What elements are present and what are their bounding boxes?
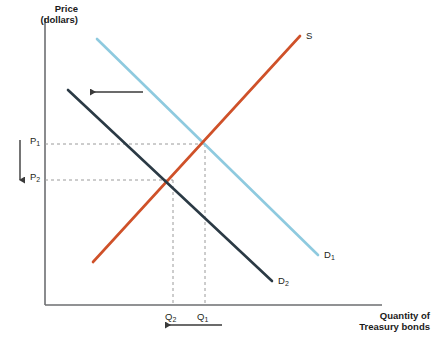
price-p1-label-sub: 1 [36,140,40,147]
quantity-q1-label: Q1 [197,312,208,323]
quantity-q2-label: Q2 [165,312,176,323]
axis-lines [45,18,382,305]
x-axis-title-line2: Treasury bonds [352,322,430,333]
demand-curve-d2 [68,90,272,281]
demand-d2-label: D2 [278,276,289,287]
chart-canvas [0,0,432,340]
y-axis-title-line2: (dollars) [0,15,78,26]
demand-d2-label-sub: 2 [285,280,289,287]
supply-curve-s [93,36,300,262]
quantity-q2-label-sub: 2 [172,316,176,323]
supply-curve-label: S [306,31,312,42]
x-axis-title: Quantity of Treasury bonds [352,311,430,333]
guide-lines [45,144,205,305]
y-axis-title: Price (dollars) [0,4,78,26]
demand-d1-label-text: D [324,249,331,260]
price-p2-label-sub: 2 [36,176,40,183]
supply-curve-label-text: S [306,30,312,41]
demand-d1-label: D1 [324,250,335,261]
price-p1-label: P1 [30,136,40,147]
price-p2-label: P2 [30,172,40,183]
quantity-q1-label-sub: 1 [204,316,208,323]
supply-demand-chart: Price (dollars) Quantity of Treasury bon… [0,0,432,340]
demand-d2-label-text: D [278,275,285,286]
demand-d1-label-sub: 1 [331,254,335,261]
